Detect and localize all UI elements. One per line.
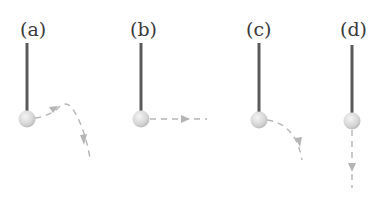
ball-d [344, 113, 361, 130]
arrow-icon [181, 115, 190, 123]
ball-b [133, 111, 150, 128]
panel-label-a: (a) [20, 18, 46, 40]
panel-label-d: (d) [340, 18, 367, 40]
panel-label-b: (b) [130, 18, 157, 40]
ball-a [19, 111, 36, 128]
pendulum-diagram: (a) (b) (c) (d) [0, 0, 383, 198]
panel-d: (d) [340, 18, 367, 188]
ball-c [251, 112, 268, 129]
trajectory-a [35, 104, 90, 158]
arrow-icon [80, 134, 87, 145]
panel-b: (b) [130, 18, 207, 128]
panel-label-c: (c) [246, 18, 271, 40]
panel-c: (c) [246, 18, 302, 160]
arrow-icon [348, 163, 356, 172]
panel-a: (a) [19, 18, 91, 158]
